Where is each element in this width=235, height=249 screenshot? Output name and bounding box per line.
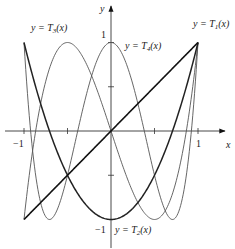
label-t3: y = T3(x) <box>30 22 68 35</box>
x-tick-label-neg1: −1 <box>13 138 24 149</box>
x-axis-label: x <box>225 139 231 150</box>
label-t4: y = T4(x) <box>124 40 162 53</box>
chebyshev-chart: x y −1 1 1 −1 y = T3(x) y = T4(x) y = T1… <box>0 0 235 249</box>
label-t2: y = T2(x) <box>114 224 152 237</box>
label-t1: y = T1(x) <box>192 18 230 31</box>
y-tick-label-1: 1 <box>101 29 106 40</box>
y-tick-label-neg1: −1 <box>95 224 106 235</box>
y-axis-label: y <box>99 3 105 14</box>
x-tick-label-1: 1 <box>196 138 201 149</box>
